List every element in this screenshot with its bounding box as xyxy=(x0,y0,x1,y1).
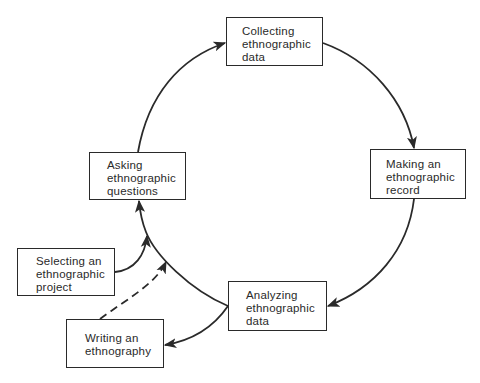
node-making-line-1: Making an xyxy=(386,158,455,171)
node-asking: Asking ethnographic questions xyxy=(89,152,186,200)
node-collecting-line-1: Collecting xyxy=(242,25,311,38)
node-collecting: Collecting ethnographic data xyxy=(226,17,323,66)
node-analyzing-line-2: ethnographic xyxy=(246,302,315,315)
node-selecting-line-3: project xyxy=(36,281,105,294)
node-asking-line-3: questions xyxy=(107,185,176,198)
node-selecting: Selecting an ethnographic project xyxy=(17,248,115,296)
edge-analyzing-to-asking xyxy=(139,201,228,306)
node-analyzing-line-1: Analyzing xyxy=(246,289,315,302)
node-asking-line-1: Asking xyxy=(107,159,176,172)
edge-analyzing-to-writing xyxy=(165,306,228,345)
edge-asking-to-collecting xyxy=(138,43,225,152)
node-selecting-line-2: ethnographic xyxy=(36,268,105,281)
node-writing: Writing an ethnography xyxy=(66,319,164,368)
node-writing-line-1: Writing an xyxy=(85,332,151,345)
node-asking-line-2: ethnographic xyxy=(107,172,176,185)
node-selecting-line-1: Selecting an xyxy=(36,255,105,268)
node-making-line-3: record xyxy=(386,184,455,197)
node-making: Making an ethnographic record xyxy=(370,149,466,199)
node-collecting-line-3: data xyxy=(242,51,311,64)
edge-collecting-to-making xyxy=(323,43,414,148)
edge-making-to-analyzing xyxy=(328,199,414,306)
node-making-line-2: ethnographic xyxy=(386,171,455,184)
node-analyzing-line-3: data xyxy=(246,315,315,328)
node-analyzing: Analyzing ethnographic data xyxy=(228,281,327,331)
node-writing-line-2: ethnography xyxy=(85,345,151,358)
edge-selecting-to-asking xyxy=(115,236,147,272)
node-collecting-line-2: ethnographic xyxy=(242,38,311,51)
